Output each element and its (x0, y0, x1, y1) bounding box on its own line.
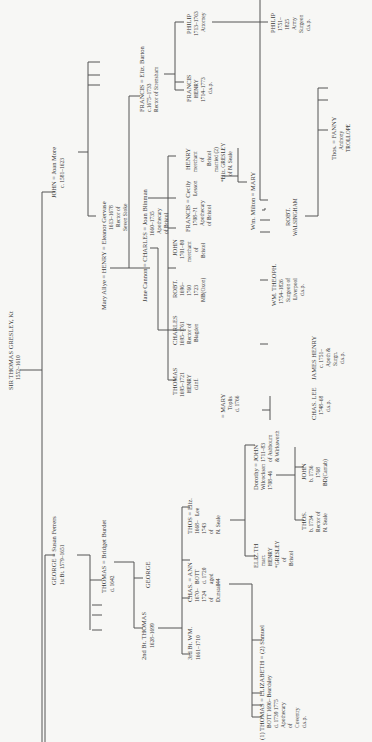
ann-right-3: aged (208, 573, 214, 584)
eh-line-1: marr. (260, 554, 266, 566)
george-detail: 1st Bt. 1579–1651 (59, 544, 65, 585)
philip-1713-name: PHILIP (185, 13, 192, 34)
jh-1: c. 1751– (318, 349, 324, 368)
r1696-4: MB(Oxon) (200, 277, 207, 302)
fc-lesson: Lesson (192, 180, 198, 196)
thos-left-2: 1743 (201, 523, 207, 534)
philip1751-5: d.s.p. (305, 19, 311, 31)
john-1701-name: JOHN (171, 239, 178, 256)
henry-name: Mary Allye = HENRY = Eleanor Gervase (100, 201, 107, 310)
george2-name: GEORGE (144, 562, 151, 588)
te-line-3: Apothecary (280, 702, 286, 728)
c1695-2: Rector of (186, 323, 192, 344)
john-3: & Wirksworth (274, 430, 280, 462)
dorothy-john-name: Dorothy = JOHN (252, 445, 259, 490)
rw-1: WALSINGHAM (292, 198, 298, 236)
thos-left-1: 1668– (194, 520, 200, 534)
charles-name: Jane Cannon = CHARLES = Joan Blinman (141, 188, 148, 302)
tf-2: TROLLOPE (345, 123, 351, 152)
te-line-5: Coventry (294, 707, 300, 728)
wm-3bt-name: 3rd Bt. WM. (186, 627, 193, 660)
ann-right-2: d. 1720 (201, 567, 207, 584)
john1736-3: BD(Cantab) (322, 459, 329, 486)
hm-4: married (2) (213, 147, 220, 172)
wt-3: Liverpool (292, 278, 298, 300)
eh-line-3: *GRESLEY (274, 540, 280, 568)
francis-1: c.1675–1733 (146, 83, 152, 112)
fc-2: Apothecary (199, 200, 205, 226)
j1701-2: merchant (186, 241, 192, 262)
john-1736-name: JOHN (300, 463, 307, 480)
mt-1: Toplis (227, 396, 233, 410)
fh-2: 1714–1773 (200, 77, 206, 102)
dorothy-1: Wilcockson (260, 464, 266, 490)
r1696-2: 1760 (186, 285, 192, 296)
ann-right-1: BOTT (194, 569, 200, 584)
henry-1: 1613–1678 (108, 205, 114, 230)
francis-cecily-name: FRANCIS = Cecily (184, 180, 191, 232)
eh-line-4: of (281, 557, 287, 562)
francis-2: Rector of Strensham (153, 66, 159, 112)
charles-1695-name: CHARLES (171, 315, 178, 345)
philip-1751-name: PHILIP (269, 12, 276, 33)
fh-3: d.s.p. (207, 82, 213, 94)
j1701-4: Bristol (200, 243, 206, 258)
fh-1: HENRY (193, 79, 199, 98)
hm-1: merchant (192, 151, 198, 172)
charles-3: of Bristol (163, 213, 169, 234)
thomas-bridget-name: THOMAS = Bridget Burdet (100, 520, 107, 593)
thomas-2bt-detail: 1628–1699 (149, 623, 155, 648)
thomas-bridget-detail: d. 1642 (109, 575, 115, 592)
jh-2: Apoth & (325, 347, 331, 367)
john1736-1: b. 1736 (308, 465, 314, 482)
cl-2: d.s.p. (325, 400, 331, 412)
george-name: GEORGE = Susan Ferrers (50, 516, 57, 585)
te-line-2: d. 1739 1775 (273, 699, 279, 728)
jh-3: Surgn. (332, 351, 338, 366)
wt-2: Surgeon of (285, 278, 291, 302)
francis-henry-name: FRANCIS (185, 74, 192, 102)
hm-3: Bristol (206, 151, 212, 166)
c1695-1: 1695–1761 (179, 321, 185, 346)
thos1734-2: Rector of (315, 511, 321, 532)
ann-right-4: 44 (215, 578, 221, 584)
thos1734-1: b. 1734 (308, 515, 314, 532)
eliz-henry-name: ELIZ.TH (252, 543, 259, 568)
thomas-2bt-name: 2nd Bt. THOMAS (140, 612, 147, 660)
thos-left-3: of (208, 529, 214, 534)
mt-2: d. 1766 (234, 395, 240, 412)
r1696-1: 1696– (179, 282, 185, 296)
j1701-3: of (193, 247, 199, 252)
eliz-lee: Lee (194, 507, 200, 516)
henry-merchant-name: HENRY (184, 148, 191, 170)
francis-eliz-name: FRANCIS = Eliz. Barton (138, 45, 145, 112)
chas-left-1: 1670– (194, 588, 200, 602)
family-tree-diagram: SIR THOMAS GRESLEY, Kt 1552–1610 GEORGE … (0, 0, 372, 742)
hm-5: *Eliz. GRESLEY (220, 143, 226, 182)
john1736-2: 1768 (315, 467, 321, 478)
mary-toplis-name: = MARY (219, 393, 226, 418)
jh-4: d.s.p. (339, 352, 345, 364)
root-dates: 1552–1610 (15, 355, 21, 380)
cl-1: 1748–68 (318, 396, 324, 416)
tree-labels: SIR THOMAS GRESLEY, Kt 1552–1610 GEORGE … (7, 11, 351, 740)
thos-fanny-name: Thos. = FANNY (330, 116, 337, 160)
charles-1: 1660–1735 (149, 211, 155, 236)
john-more-name: JOHN = Joan More (50, 147, 57, 198)
te-line-1: BOTT 1696– Beardsley (266, 675, 272, 728)
philip1713-1: 1713–1763 (193, 11, 199, 36)
philip1751-1: 1751– (277, 17, 283, 31)
thomas-1695-name: THOMAS (171, 367, 178, 395)
r1696-3: 1723 (193, 285, 199, 296)
charles-2: Apothecary (156, 208, 162, 234)
fc-1: 1708–?1 (192, 207, 198, 226)
milton-mary-name: Wm. Milton = MARY (249, 171, 256, 230)
j1701-1: 1701–80 (179, 240, 185, 260)
wm-3bt-detail: 1661–1710 (195, 635, 201, 660)
thomas-elizabeth-name: (1) THOMAS = ELIZABETH = (2) Samuel (258, 625, 266, 740)
t1695-2: HENRY (186, 374, 192, 393)
root-name: SIR THOMAS GRESLEY, Kt (7, 311, 14, 390)
wt-1: 1754–1826 (278, 279, 284, 304)
thos-1734-name: THOS. (300, 511, 307, 530)
john-1: 1711–83 (260, 443, 266, 462)
